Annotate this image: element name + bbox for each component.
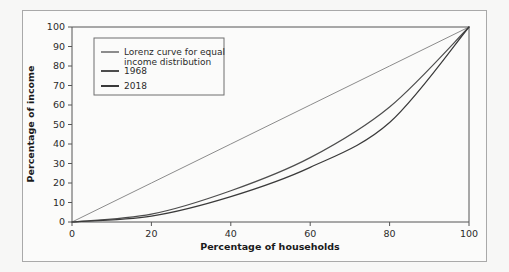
y-tick-label: 70 (53, 80, 65, 91)
figure-root: 0102030405060708090100 020406080100 Perc… (0, 0, 509, 272)
y-tick-label: 100 (47, 21, 65, 32)
x-tick-label: 100 (460, 228, 478, 239)
legend-label-2: 2018 (124, 81, 147, 91)
lorenz-curve-chart: 0102030405060708090100 020406080100 Perc… (0, 0, 509, 272)
chart-legend: Lorenz curve for equalincome distributio… (94, 38, 225, 95)
x-tick-label: 0 (69, 228, 75, 239)
x-axis-title: Percentage of households (200, 241, 340, 252)
y-tick-label: 30 (53, 158, 65, 169)
y-tick-label: 0 (59, 216, 65, 227)
legend-label-1: 1968 (124, 66, 147, 76)
legend-label-0-line2: income distribution (124, 57, 211, 67)
y-tick-label: 40 (53, 138, 65, 149)
y-tick-label: 20 (53, 177, 65, 188)
x-tick-label: 80 (384, 228, 396, 239)
y-tick-label: 60 (53, 99, 65, 110)
x-tick-label: 40 (225, 228, 237, 239)
x-tick-label: 20 (145, 228, 157, 239)
y-axis-title: Percentage of income (25, 66, 36, 183)
y-axis-ticks: 0102030405060708090100 (47, 21, 72, 227)
y-tick-label: 90 (53, 41, 65, 52)
y-tick-label: 50 (53, 119, 65, 130)
y-tick-label: 80 (53, 60, 65, 71)
y-tick-label: 10 (53, 197, 65, 208)
x-tick-label: 60 (304, 228, 316, 239)
x-axis-ticks: 020406080100 (69, 222, 478, 239)
